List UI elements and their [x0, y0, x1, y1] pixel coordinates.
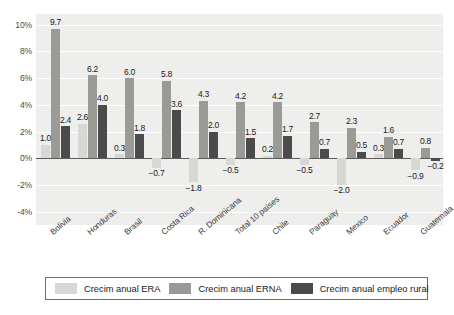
bar-era[interactable] — [374, 154, 383, 158]
bar-value-label: −1.8 — [181, 183, 207, 193]
bar-group: 0.36.01.8 — [115, 14, 144, 225]
chart-legend: Crecim anual ERACrecim anual ERNACrecim … — [45, 277, 428, 300]
bar-value-label: −0.9 — [403, 171, 429, 181]
legend-item[interactable]: Crecim anual ERNA — [169, 283, 281, 294]
bar-era[interactable] — [337, 158, 346, 185]
bar-group: −0.52.70.7 — [300, 14, 329, 225]
legend-swatch-rural — [291, 283, 313, 294]
bar-group: −1.84.32.0 — [189, 14, 218, 225]
bar-erna[interactable] — [125, 78, 134, 158]
bar-value-label: 1.6 — [376, 125, 402, 135]
y-axis-tick-label: -4% — [0, 207, 32, 217]
bar-era[interactable] — [226, 158, 235, 165]
bar-value-label: 0.7 — [312, 137, 338, 147]
legend-item[interactable]: Crecim anual empleo rural — [291, 283, 429, 294]
bar-group: 0.24.21.7 — [263, 14, 292, 225]
bar-era[interactable] — [189, 158, 198, 182]
bar-value-label: 2.3 — [339, 116, 365, 126]
bar-group: −0.90.8−0.2 — [411, 14, 440, 225]
bar-erna[interactable] — [51, 29, 60, 159]
legend-swatch-era — [55, 283, 77, 294]
bar-value-label: −0.5 — [218, 165, 244, 175]
bar-value-label: −0.5 — [292, 165, 318, 175]
bar-erna[interactable] — [421, 148, 430, 159]
y-axis-tick-label: -2% — [0, 180, 32, 190]
bar-value-label: −0.7 — [144, 168, 170, 178]
bar-value-label: 4.2 — [265, 91, 291, 101]
bar-value-label: 6.2 — [80, 64, 106, 74]
y-axis-tick-label: 2% — [0, 127, 32, 137]
bar-rural[interactable] — [61, 126, 70, 158]
bar-value-label: 4.2 — [228, 91, 254, 101]
bar-value-label: 6.0 — [117, 67, 143, 77]
bar-group: 1.09.72.4 — [41, 14, 70, 225]
bar-group: −0.54.21.5 — [226, 14, 255, 225]
bar-value-label: 3.6 — [164, 99, 190, 109]
bar-rural[interactable] — [135, 134, 144, 158]
bar-value-label: 2.7 — [302, 111, 328, 121]
y-axis-tick-label: 6% — [0, 73, 32, 83]
bar-value-label: −0.2 — [423, 161, 449, 171]
bar-rural[interactable] — [320, 149, 329, 158]
bar-era[interactable] — [263, 156, 272, 159]
bar-value-label: 1.5 — [238, 127, 264, 137]
bar-value-label: 4.0 — [90, 93, 116, 103]
legend-label: Crecim anual ERA — [84, 284, 160, 294]
bar-value-label: 0.7 — [386, 137, 412, 147]
bar-rural[interactable] — [172, 110, 181, 158]
bar-value-label: 1.8 — [127, 123, 153, 133]
bar-value-label: 5.8 — [154, 69, 180, 79]
legend-swatch-erna — [169, 283, 191, 294]
bar-erna[interactable] — [88, 75, 97, 158]
bar-value-label: 1.7 — [275, 124, 301, 134]
bar-rural[interactable] — [209, 132, 218, 159]
bar-era[interactable] — [115, 154, 124, 158]
bar-group: −0.75.83.6 — [152, 14, 181, 225]
bar-group: 0.31.60.7 — [374, 14, 403, 225]
legend-item[interactable]: Crecim anual ERA — [55, 283, 160, 294]
bar-group: 2.66.24.0 — [78, 14, 107, 225]
bar-era[interactable] — [41, 145, 50, 158]
bar-era[interactable] — [78, 124, 87, 159]
bar-rural[interactable] — [283, 136, 292, 159]
legend-label: Crecim anual empleo rural — [320, 284, 429, 294]
bar-era[interactable] — [411, 158, 420, 170]
bar-value-label: 9.7 — [43, 17, 69, 27]
legend-label: Crecim anual ERNA — [198, 284, 281, 294]
plot-area: 1.09.72.42.66.24.00.36.01.8−0.75.83.6−1.… — [36, 14, 443, 225]
y-axis-tick-label: 0% — [0, 153, 32, 163]
y-axis-tick-label: 4% — [0, 100, 32, 110]
bar-era[interactable] — [300, 158, 309, 165]
y-axis-tick-label: 10% — [0, 20, 32, 30]
bar-value-label: 4.3 — [191, 89, 217, 99]
y-axis-tick-label: 8% — [0, 46, 32, 56]
bar-group: −2.02.30.5 — [337, 14, 366, 225]
bar-era[interactable] — [152, 158, 161, 167]
bar-erna[interactable] — [162, 81, 171, 158]
bar-value-label: −2.0 — [329, 185, 355, 195]
bar-value-label: 0.8 — [413, 136, 439, 146]
bar-rural[interactable] — [394, 149, 403, 158]
bar-value-label: 2.0 — [201, 120, 227, 130]
